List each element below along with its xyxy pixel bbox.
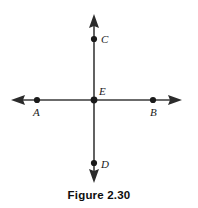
figure-container: C E A B D Figure 2.30 [0,0,198,208]
figure-caption: Figure 2.30 [0,188,198,202]
point-e-dot [91,97,98,104]
point-label-c: C [101,34,108,45]
point-label-d: D [101,159,109,170]
point-a-dot [34,97,40,103]
point-label-e: E [99,86,106,97]
point-c-dot [91,36,97,42]
arrowhead-right-icon [168,95,182,105]
arrowhead-left-icon [11,95,25,105]
point-d-dot [91,160,97,166]
arrowhead-up-icon [89,14,99,28]
point-b-dot [150,97,156,103]
point-label-a: A [33,107,40,118]
point-label-b: B [150,107,157,118]
arrowhead-down-icon [89,169,99,183]
